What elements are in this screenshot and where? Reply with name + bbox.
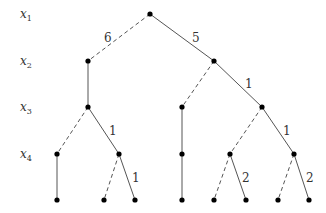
tree-node-a1 <box>85 104 90 109</box>
tree-node-l5 <box>211 197 216 202</box>
level-label-x4: x4 <box>20 147 32 163</box>
tree-node-a10 <box>54 151 59 156</box>
level-label-x3: x3 <box>20 100 32 116</box>
decision-tree-diagram: x1x2x3x465111122 <box>0 0 326 213</box>
tree-node-b1 <box>259 104 264 109</box>
edge-weight-label: 2 <box>242 171 250 185</box>
edge-b11-l7 <box>278 154 294 200</box>
tree-node-l8 <box>306 197 311 202</box>
edge-b10-l5 <box>214 154 230 200</box>
tree-node-l4 <box>179 197 184 202</box>
tree-node-b0 <box>179 104 184 109</box>
edge-r-b <box>150 14 214 61</box>
edge-weight-label: 1 <box>245 77 253 91</box>
tree-node-l1 <box>54 197 59 202</box>
edge-a1-a10 <box>57 107 88 154</box>
tree-node-a <box>85 58 90 63</box>
edge-b-b1 <box>214 61 262 107</box>
edge-weight-label: 1 <box>132 171 140 185</box>
edge-weight-label: 2 <box>306 171 314 185</box>
edge-weight-label: 6 <box>104 31 112 45</box>
tree-node-a11 <box>116 151 121 156</box>
edge-b1-b10 <box>230 107 262 154</box>
edge-weight-label: 1 <box>109 124 117 138</box>
tree-node-l6 <box>243 197 248 202</box>
edge-weight-label: 5 <box>192 31 200 45</box>
edge-a11-l2 <box>104 154 119 200</box>
edge-b-b0 <box>182 61 214 107</box>
edge-weight-label: 1 <box>283 124 291 138</box>
edge-r-a <box>88 14 150 61</box>
tree-node-l7 <box>275 197 280 202</box>
level-label-x1: x1 <box>20 7 32 23</box>
tree-node-l3 <box>132 197 137 202</box>
tree-node-b11 <box>291 151 296 156</box>
tree-node-l2 <box>101 197 106 202</box>
tree-node-b10 <box>227 151 232 156</box>
tree-node-b00 <box>179 151 184 156</box>
tree-svg: x1x2x3x465111122 <box>0 0 326 213</box>
tree-node-r <box>147 11 152 16</box>
level-label-x2: x2 <box>20 54 32 70</box>
tree-node-b <box>211 58 216 63</box>
